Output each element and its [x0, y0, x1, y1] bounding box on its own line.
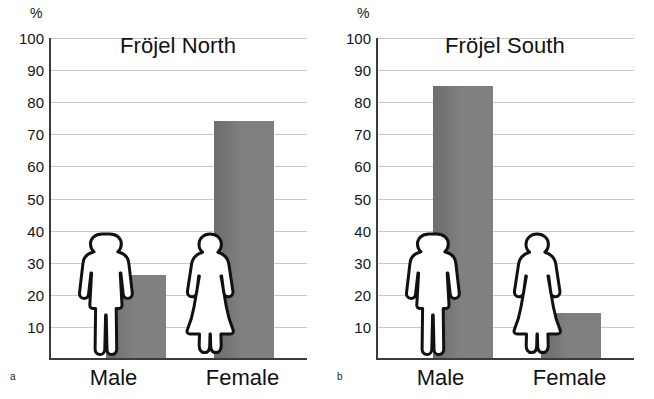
chart-title-south: Fröjel South — [376, 34, 634, 58]
male-figure-icon — [71, 231, 133, 358]
y-tick-80: 80 — [10, 95, 44, 110]
gridline-50-south — [378, 199, 634, 200]
y-tick-10: 10 — [10, 320, 44, 335]
y-tick-100-south: 100 — [337, 31, 371, 46]
panel-letter-b: b — [337, 372, 343, 382]
plot-area-south — [376, 38, 634, 360]
x-label-south-female: Female — [505, 366, 634, 390]
panel-letter-a: a — [10, 372, 16, 382]
gridline-90 — [51, 70, 307, 71]
y-axis-tick-labels-south: 100 90 80 70 60 50 40 30 20 10 — [327, 0, 371, 399]
y-tick-50-south: 50 — [337, 192, 371, 207]
x-label-north-male: Male — [49, 366, 178, 390]
y-tick-40: 40 — [10, 224, 44, 239]
y-tick-90-south: 90 — [337, 63, 371, 78]
female-figure-icon — [177, 231, 243, 358]
x-label-south-male: Male — [376, 366, 505, 390]
y-tick-50: 50 — [10, 192, 44, 207]
y-tick-20: 20 — [10, 288, 44, 303]
y-axis-tick-labels-north: 100 90 80 70 60 50 40 30 20 10 — [0, 0, 44, 399]
y-tick-60: 60 — [10, 159, 44, 174]
y-tick-20-south: 20 — [337, 288, 371, 303]
gridline-80 — [51, 102, 307, 103]
plot-area-north — [49, 38, 307, 360]
y-tick-80-south: 80 — [337, 95, 371, 110]
x-label-north-female: Female — [178, 366, 307, 390]
chart-title-north: Fröjel North — [49, 34, 307, 58]
gridline-90-south — [378, 70, 634, 71]
panel-froejel-north: % 100 90 80 70 60 50 40 30 20 10 — [0, 0, 327, 399]
x-axis-line — [49, 358, 307, 360]
panel-froejel-south: % 100 90 80 70 60 50 40 30 20 10 — [327, 0, 654, 399]
x-axis-line-south — [376, 358, 634, 360]
y-tick-100: 100 — [10, 31, 44, 46]
gridline-80-south — [378, 102, 634, 103]
y-tick-90: 90 — [10, 63, 44, 78]
gridline-60-south — [378, 166, 634, 167]
y-tick-30-south: 30 — [337, 256, 371, 271]
female-figure-icon — [504, 231, 570, 358]
y-tick-60-south: 60 — [337, 159, 371, 174]
y-tick-70-south: 70 — [337, 127, 371, 142]
gridline-70-south — [378, 134, 634, 135]
male-figure-icon — [398, 231, 460, 358]
y-tick-10-south: 10 — [337, 320, 371, 335]
y-tick-40-south: 40 — [337, 224, 371, 239]
y-tick-70: 70 — [10, 127, 44, 142]
y-tick-30: 30 — [10, 256, 44, 271]
figure-two-panel-bar-charts: % 100 90 80 70 60 50 40 30 20 10 — [0, 0, 654, 399]
